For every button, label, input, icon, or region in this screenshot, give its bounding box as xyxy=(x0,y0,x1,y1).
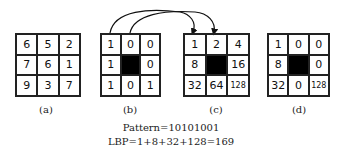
cell: 7 xyxy=(16,55,37,76)
grid-d: 1 0 0 8 0 32 0 128 xyxy=(267,33,330,97)
cell: 0 xyxy=(140,55,160,76)
cell: 1 xyxy=(101,34,121,55)
cell: 1 xyxy=(268,34,288,55)
cell: 0 xyxy=(121,75,141,96)
cell: 3 xyxy=(37,75,58,96)
lbp-label: LBP=1+8+32+128=169 xyxy=(0,136,342,147)
caption-d: (d) xyxy=(292,104,306,115)
cell: 4 xyxy=(227,34,249,55)
cell: 1 xyxy=(184,34,206,55)
cell: 6 xyxy=(16,34,37,55)
cell: 5 xyxy=(37,34,58,55)
caption-a: (a) xyxy=(39,104,53,115)
cell: 6 xyxy=(37,55,58,76)
grid-b: 1 0 0 1 0 1 0 1 xyxy=(100,33,161,97)
cell: 8 xyxy=(268,55,288,76)
cell: 32 xyxy=(268,75,288,96)
center-cell xyxy=(288,55,308,76)
cell: 2 xyxy=(206,34,228,55)
cell: 16 xyxy=(227,55,249,76)
arrow-b-to-c-left xyxy=(110,10,194,33)
cell: 9 xyxy=(16,75,37,96)
cell: 0 xyxy=(121,34,141,55)
grid-a: 6 5 2 7 6 1 9 3 7 xyxy=(15,33,81,97)
cell: 0 xyxy=(309,55,329,76)
cell: 0 xyxy=(288,34,308,55)
cell: 7 xyxy=(59,75,80,96)
center-cell xyxy=(206,55,228,76)
caption-c: (c) xyxy=(209,104,222,115)
cell: 1 xyxy=(59,55,80,76)
cell: 8 xyxy=(184,55,206,76)
cell: 0 xyxy=(288,75,308,96)
cell: 128 xyxy=(227,75,249,96)
cell: 1 xyxy=(101,55,121,76)
cell: 0 xyxy=(309,34,329,55)
cell: 1 xyxy=(140,75,160,96)
pattern-label: Pattern=10101001 xyxy=(0,122,342,133)
caption-b: (b) xyxy=(123,104,137,115)
arrow-b-to-c-mid xyxy=(130,12,214,33)
cell: 32 xyxy=(184,75,206,96)
cell: 2 xyxy=(59,34,80,55)
center-cell xyxy=(121,55,141,76)
cell: 64 xyxy=(206,75,228,96)
grid-c: 1 2 4 8 16 32 64 128 xyxy=(183,33,250,97)
cell: 1 xyxy=(101,75,121,96)
cell: 0 xyxy=(140,34,160,55)
cell: 128 xyxy=(309,75,329,96)
